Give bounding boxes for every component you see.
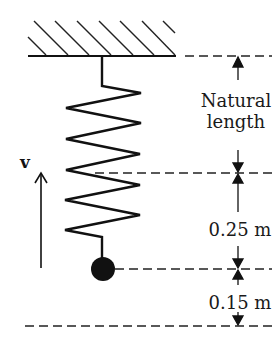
natural-length-label-line1: Natural: [201, 90, 272, 111]
natural-length-label-line2: length: [207, 111, 266, 132]
mass-ball: [91, 257, 115, 281]
velocity-arrow: [35, 173, 47, 268]
spring: [65, 56, 141, 258]
velocity-label: v: [19, 152, 31, 172]
extension-label: 0.25 m: [209, 219, 272, 240]
ceiling-hatching: [28, 21, 175, 55]
further-extension-label: 0.15 m: [209, 292, 272, 313]
spring-diagram: v Natural length 0.25 m 0.15 m: [0, 0, 278, 348]
